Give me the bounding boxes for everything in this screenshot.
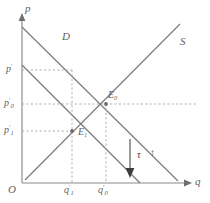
equilibrium-point-E0 [104, 102, 108, 106]
tax-direction-arrow-icon: ↑ [150, 148, 155, 158]
quantity-tick-q-one-sub: 1 [71, 189, 74, 196]
supply-curve-label: S [180, 36, 186, 47]
price-tick-p-one-sub: 1 [11, 129, 14, 136]
supply-demand-tax-figure: p q O D S p′ p′0 p′1 q′1 q′0 E0 E1 τ ↑ [0, 0, 210, 203]
equilibrium-label-E0-sub: 0 [114, 94, 117, 101]
quantity-tick-q-zero-sub: 0 [105, 189, 108, 196]
price-tick-p-prime: p′ [6, 64, 13, 74]
y-axis-label: p [25, 3, 31, 14]
x-axis-label: q [195, 176, 201, 187]
x-axis-arrowhead [184, 180, 192, 187]
demand-curve-label: D [62, 31, 70, 42]
price-tick-p-one: p′1 [4, 125, 14, 135]
price-tick-p-zero-sub: 0 [11, 102, 14, 109]
quantity-tick-q-one: q′1 [64, 185, 74, 195]
equilibrium-label-E0: E0 [108, 90, 117, 100]
tax-symbol-label: τ [137, 150, 141, 160]
price-tick-p-prime-sup: ′ [11, 62, 13, 70]
equilibrium-point-E1 [70, 129, 74, 133]
price-tick-p-zero: p′0 [4, 98, 14, 108]
equilibrium-label-E1-sub: 1 [84, 131, 87, 138]
figure-canvas [0, 0, 210, 203]
quantity-tick-q-zero: q′0 [98, 185, 108, 195]
supply-curve [25, 24, 180, 180]
equilibrium-label-E1: E1 [78, 127, 87, 137]
origin-label: O [8, 184, 16, 195]
y-axis-arrowhead [19, 13, 26, 21]
